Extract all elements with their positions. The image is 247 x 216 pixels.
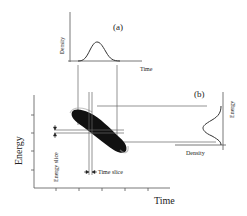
panel-a-ylabel: Density [59, 37, 65, 54]
panel-b-label: (b) [194, 89, 205, 99]
panel-b [175, 92, 226, 150]
panel-a-label: (a) [113, 22, 123, 32]
scatter-cloud [70, 108, 128, 153]
main-ylabel: Energy [13, 136, 24, 165]
main-xlabel: Time [154, 195, 175, 206]
panel-b-xlabel: Density [186, 150, 205, 156]
time-slice-lines [89, 92, 92, 175]
energy-slice-label: Energy slice [53, 152, 59, 182]
panel-a [68, 12, 142, 62]
time-slice-label: Time slice [98, 169, 123, 175]
panel-b-ylabel: Energy [229, 101, 235, 118]
main-axes [31, 95, 170, 191]
panel-a-xlabel: Time [140, 66, 153, 72]
diagram: (a) Time Density [0, 0, 247, 216]
